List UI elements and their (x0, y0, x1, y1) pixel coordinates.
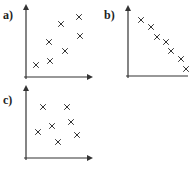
data-point-x-marker (178, 56, 184, 62)
scatter-panel-b (126, 8, 189, 78)
data-point-x-marker (58, 21, 64, 27)
data-point-x-marker (62, 48, 68, 54)
data-point-x-marker (49, 123, 55, 129)
data-point-x-marker (154, 34, 160, 40)
data-point-x-marker (148, 24, 154, 30)
data-point-x-marker (47, 58, 53, 64)
data-point-x-marker (168, 48, 174, 54)
data-point-x-marker (55, 139, 61, 145)
scatter-panel-a (24, 7, 90, 79)
data-point-x-marker (74, 132, 80, 138)
data-point-x-marker (46, 39, 52, 45)
scatter-plots (0, 0, 189, 169)
data-point-x-marker (77, 33, 83, 39)
data-point-x-marker (35, 129, 41, 135)
data-point-x-marker (163, 39, 169, 45)
data-point-x-marker (68, 119, 74, 125)
data-point-x-marker (33, 62, 39, 68)
data-point-x-marker (64, 104, 70, 110)
data-point-x-marker (76, 14, 82, 20)
data-point-x-marker (183, 66, 189, 72)
scatter-panel-c (24, 88, 90, 160)
data-point-x-marker (138, 17, 144, 23)
data-point-x-marker (40, 104, 46, 110)
